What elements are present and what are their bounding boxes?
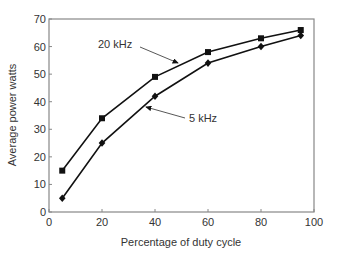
y-tick-label: 50 <box>34 68 46 80</box>
annotation-5-khz: 5 kHz <box>146 107 217 124</box>
diamond-marker <box>258 43 265 51</box>
chart-canvas: 010203040506070 020406080100 20 kHz5 kHz… <box>0 0 337 257</box>
annotations: 20 kHz5 kHz <box>98 38 217 124</box>
x-tick-label: 40 <box>149 216 161 228</box>
x-tick-label: 20 <box>96 216 108 228</box>
y-tick-label: 20 <box>34 151 46 163</box>
annotation-label: 20 kHz <box>98 38 132 50</box>
x-tick-label: 80 <box>255 216 267 228</box>
y-tick-label: 10 <box>34 178 46 190</box>
square-marker <box>258 35 264 41</box>
x-axis-label: Percentage of duty cycle <box>121 236 241 248</box>
y-tick-label: 70 <box>34 13 46 25</box>
plot-frame <box>49 19 314 212</box>
line-chart: 010203040506070 020406080100 20 kHz5 kHz… <box>0 0 337 257</box>
annotation-20-khz: 20 kHz <box>98 38 178 63</box>
annotation-label: 5 kHz <box>189 112 217 124</box>
y-tick-label: 30 <box>34 123 46 135</box>
plot-border <box>49 19 314 212</box>
arrow-icon <box>140 47 178 63</box>
square-marker <box>152 74 158 80</box>
square-marker <box>99 115 105 121</box>
y-tick-label: 60 <box>34 41 46 53</box>
data-series <box>59 27 304 202</box>
arrow-icon <box>146 107 185 118</box>
square-marker <box>205 49 211 55</box>
y-axis-label: Average power watts <box>6 63 18 166</box>
x-tick-label: 100 <box>305 216 323 228</box>
x-tick-label: 0 <box>46 216 52 228</box>
square-marker <box>59 168 65 174</box>
diamond-marker <box>205 59 212 67</box>
x-tick-label: 60 <box>202 216 214 228</box>
y-tick-label: 40 <box>34 96 46 108</box>
